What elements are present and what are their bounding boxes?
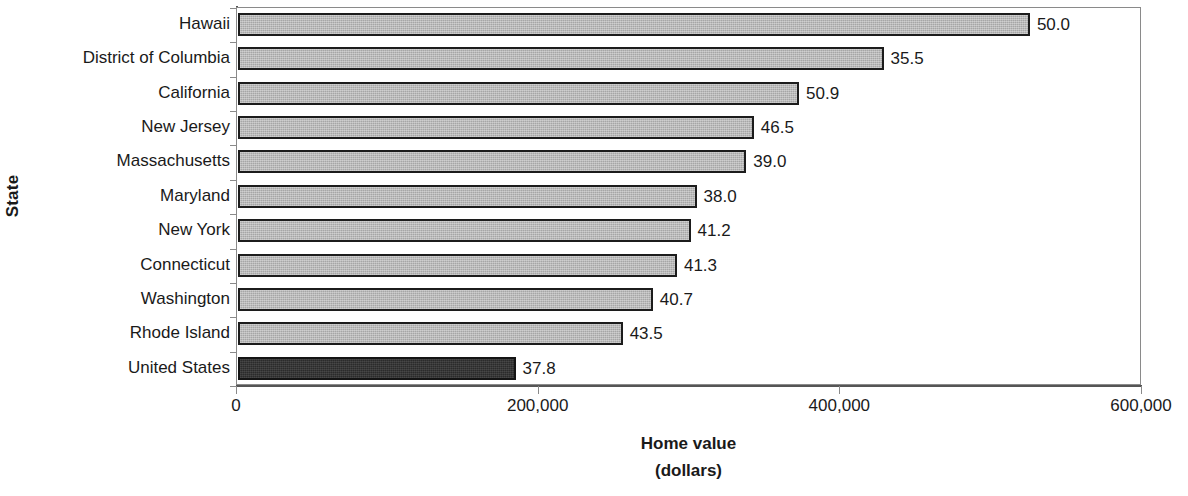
y-axis-category-labels: HawaiiDistrict of ColumbiaCaliforniaNew … — [26, 7, 230, 385]
y-axis-title-text: State — [3, 175, 23, 218]
bar[interactable] — [238, 82, 799, 105]
y-axis-tick-mark — [230, 180, 237, 181]
bar-row: 46.5 — [237, 111, 1140, 145]
bar[interactable] — [238, 322, 623, 345]
y-axis-tick-mark — [230, 249, 237, 250]
x-axis-tick-label: 200,000 — [507, 396, 568, 416]
y-axis-tick-label: Massachusetts — [117, 144, 230, 178]
bar-value-label: 46.5 — [761, 116, 794, 139]
bar-chart: State HawaiiDistrict of ColumbiaCaliforn… — [0, 0, 1188, 496]
bar-value-label: 37.8 — [523, 357, 556, 380]
bar-row: 50.9 — [237, 77, 1140, 111]
bar[interactable] — [238, 254, 677, 277]
bar-row: 41.3 — [237, 249, 1140, 283]
bar-row: 37.8 — [237, 352, 1140, 386]
bar-value-label: 38.0 — [704, 185, 737, 208]
y-axis-tick-label: New York — [158, 213, 230, 247]
bar[interactable] — [238, 288, 653, 311]
y-axis-title: State — [0, 0, 26, 392]
bar-value-label: 41.2 — [698, 219, 731, 242]
y-axis-tick-label: District of Columbia — [83, 41, 230, 75]
bar-row: 35.5 — [237, 42, 1140, 76]
bar[interactable] — [238, 219, 691, 242]
bar[interactable] — [238, 185, 697, 208]
x-axis-title: Home value (dollars) — [236, 430, 1141, 484]
bar[interactable] — [238, 13, 1030, 36]
bar-value-label: 39.0 — [753, 150, 786, 173]
bar-row: 39.0 — [237, 145, 1140, 179]
y-axis-tick-label: Maryland — [160, 179, 230, 213]
x-axis-tick-label: 400,000 — [809, 396, 870, 416]
bar-row: 43.5 — [237, 317, 1140, 351]
bar[interactable] — [238, 150, 746, 173]
bar[interactable] — [238, 357, 516, 380]
bar-row: 41.2 — [237, 214, 1140, 248]
y-axis-tick-mark — [230, 77, 237, 78]
y-axis-tick-label: Washington — [141, 282, 230, 316]
y-axis-tick-label: United States — [128, 351, 230, 385]
x-axis-title-line1: Home value — [641, 434, 736, 453]
y-axis-tick-mark — [230, 283, 237, 284]
bar-value-label: 50.0 — [1037, 13, 1070, 36]
bar-value-label: 40.7 — [660, 288, 693, 311]
x-axis-tick-mark — [1141, 386, 1142, 394]
y-axis-tick-mark — [230, 214, 237, 215]
bar-row: 40.7 — [237, 283, 1140, 317]
bar-value-label: 41.3 — [684, 254, 717, 277]
bar[interactable] — [238, 116, 754, 139]
x-axis-title-line2: (dollars) — [236, 457, 1141, 484]
y-axis-tick-label: Hawaii — [179, 7, 230, 41]
x-axis-tick-mark — [538, 386, 539, 394]
y-axis-tick-label: California — [158, 76, 230, 110]
bar-row: 50.0 — [237, 8, 1140, 42]
y-axis-tick-mark — [230, 352, 237, 353]
bar-value-label: 50.9 — [806, 82, 839, 105]
y-axis-tick-mark — [230, 42, 237, 43]
y-axis-tick-mark — [230, 145, 237, 146]
bar-value-label: 35.5 — [891, 47, 924, 70]
bar[interactable] — [238, 47, 884, 70]
x-axis-tick-mark — [839, 386, 840, 394]
y-axis-tick-label: New Jersey — [141, 110, 230, 144]
x-axis-tick-label: 0 — [231, 396, 240, 416]
plot-area: 50.035.550.946.539.038.041.241.340.743.5… — [236, 7, 1141, 385]
x-axis-tick-mark — [236, 386, 237, 394]
y-axis-tick-mark — [230, 8, 237, 9]
bar-value-label: 43.5 — [630, 322, 663, 345]
bar-row: 38.0 — [237, 180, 1140, 214]
y-axis-tick-label: Connecticut — [140, 248, 230, 282]
y-axis-tick-mark — [230, 111, 237, 112]
y-axis-tick-label: Rhode Island — [130, 316, 230, 350]
y-axis-tick-mark — [230, 317, 237, 318]
x-axis-tick-label: 600,000 — [1110, 396, 1171, 416]
